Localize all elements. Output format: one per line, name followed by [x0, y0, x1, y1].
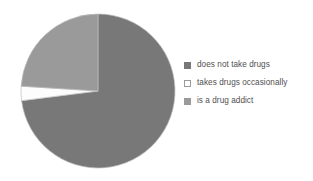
legend-swatch-takes-drugs-occasionally [184, 80, 191, 87]
legend-item-takes-drugs-occasionally[interactable]: takes drugs occasionally [184, 74, 312, 92]
legend-label-takes-drugs-occasionally: takes drugs occasionally [197, 79, 287, 87]
legend-label-is-a-drug-addict: is a drug addict [197, 97, 253, 105]
pie-chart-figure: does not take drugs takes drugs occasion… [0, 0, 313, 181]
pie-slice-is-a-drug-addict[interactable] [21, 14, 98, 91]
pie-chart-plot-area [0, 0, 186, 181]
legend-item-does-not-take-drugs[interactable]: does not take drugs [184, 56, 312, 74]
legend-item-is-a-drug-addict[interactable]: is a drug addict [184, 92, 312, 110]
pie-slice-group [21, 14, 175, 168]
legend-swatch-is-a-drug-addict [184, 98, 191, 105]
pie-chart-svg [0, 0, 186, 181]
chart-legend: does not take drugs takes drugs occasion… [184, 56, 312, 110]
legend-label-does-not-take-drugs: does not take drugs [197, 61, 270, 69]
legend-swatch-does-not-take-drugs [184, 62, 191, 69]
